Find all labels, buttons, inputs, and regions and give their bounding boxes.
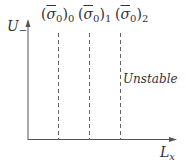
threshold-label-0: (σ0)0 [41, 6, 74, 24]
unstable-region-label: Unstable [123, 72, 178, 86]
x-axis-label: Lx [160, 144, 175, 162]
threshold-label-2: (σ0)2 [115, 6, 148, 24]
x-axis-arrow-icon [169, 137, 177, 142]
y-axis-label: U− [7, 18, 27, 36]
threshold-label-1: (σ0)1 [78, 6, 111, 24]
